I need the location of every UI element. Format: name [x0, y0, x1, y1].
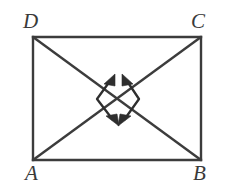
- vertex-label-d: D: [23, 11, 38, 32]
- vertex-label-a: A: [25, 163, 38, 184]
- vertex-label-c: C: [191, 11, 205, 32]
- geometry-figure: D C A B: [0, 0, 226, 193]
- vertex-label-b: B: [193, 163, 206, 184]
- right-double-arrow: [118, 74, 139, 126]
